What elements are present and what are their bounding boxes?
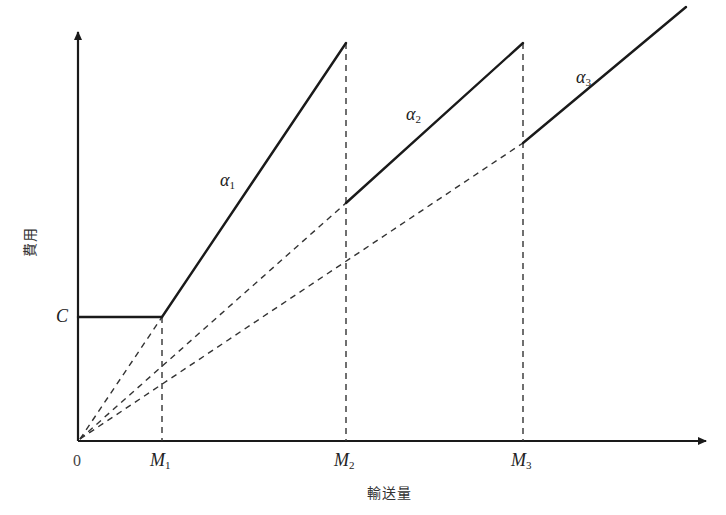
x-axis-label: 輸送量	[367, 482, 412, 502]
ray-alpha2	[80, 203, 346, 439]
segment-alpha1	[162, 43, 346, 317]
cost-diagram	[0, 0, 726, 515]
y-axis-label: 費用	[19, 227, 39, 257]
alpha2-label: α2	[406, 104, 421, 125]
ray-alpha3	[80, 143, 523, 439]
segment-alpha3	[523, 7, 686, 143]
tick-m1: M1	[150, 450, 171, 471]
tick-m3: M3	[511, 450, 532, 471]
origin-label: 0	[73, 452, 81, 470]
tick-m2: M2	[334, 450, 355, 471]
tick-c: C	[56, 306, 68, 327]
alpha3-label: α3	[576, 67, 591, 88]
alpha1-label: α1	[220, 170, 235, 191]
segment-alpha2	[346, 43, 523, 203]
